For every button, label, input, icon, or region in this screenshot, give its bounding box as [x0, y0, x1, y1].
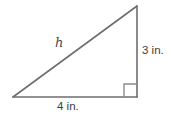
hypotenuse-line	[13, 6, 137, 97]
vertical-leg-label: 3 in.	[142, 45, 164, 57]
triangle-drawing	[0, 0, 171, 117]
right-triangle-figure: h 3 in. 4 in.	[0, 0, 171, 117]
right-angle-square-icon	[124, 84, 137, 97]
hypotenuse-label: h	[55, 36, 63, 49]
horizontal-leg-label: 4 in.	[57, 101, 79, 113]
